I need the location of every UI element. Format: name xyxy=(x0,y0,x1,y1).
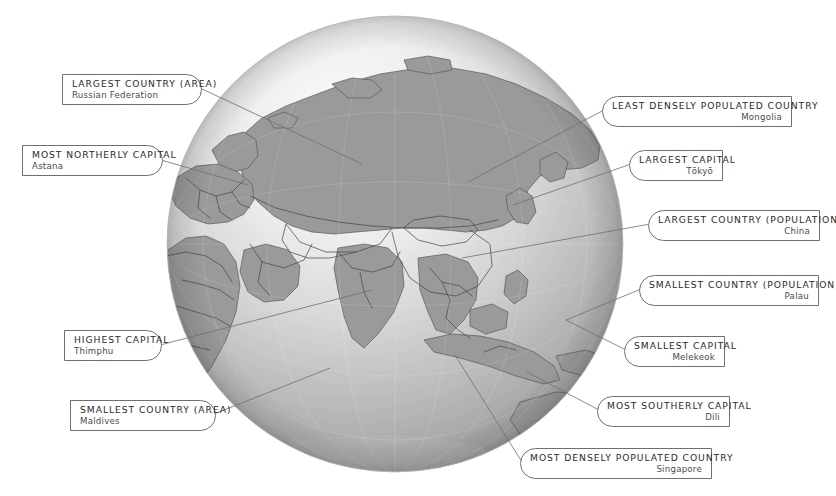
callout-value: Astana xyxy=(32,162,153,171)
callout-value: Russian Federation xyxy=(72,91,192,100)
callout-largest-country-area[interactable]: LARGEST COUNTRY (AREA)Russian Federation xyxy=(62,74,202,105)
callout-value: Maldives xyxy=(80,417,206,426)
callout-header: LEAST DENSELY POPULATED COUNTRY xyxy=(612,101,782,110)
callout-header: SMALLEST COUNTRY (POPULATION) xyxy=(649,280,809,289)
callout-least-densely-populated-country[interactable]: LEAST DENSELY POPULATED COUNTRYMongolia xyxy=(602,96,792,127)
callout-value: Melekeok xyxy=(634,353,715,362)
callout-largest-capital[interactable]: LARGEST CAPITALTōkyō xyxy=(629,150,723,181)
callout-value: Thimphu xyxy=(74,347,152,356)
callout-header: HIGHEST CAPITAL xyxy=(74,335,152,344)
callout-smallest-country-area[interactable]: SMALLEST COUNTRY (AREA)Maldives xyxy=(70,400,216,431)
callout-header: MOST SOUTHERLY CAPITAL xyxy=(607,401,720,410)
callout-value: Dili xyxy=(607,413,720,422)
callout-header: SMALLEST COUNTRY (AREA) xyxy=(80,405,206,414)
callout-header: LARGEST CAPITAL xyxy=(639,155,713,164)
infographic-canvas: LARGEST COUNTRY (AREA)Russian Federation… xyxy=(0,0,836,496)
globe-rim-shading xyxy=(167,16,623,472)
callout-value: Palau xyxy=(649,292,809,301)
callout-most-densely-populated-country[interactable]: MOST DENSELY POPULATED COUNTRYSingapore xyxy=(520,448,712,479)
callout-header: MOST DENSELY POPULATED COUNTRY xyxy=(530,453,702,462)
callout-header: SMALLEST CAPITAL xyxy=(634,341,715,350)
callout-most-northerly-capital[interactable]: MOST NORTHERLY CAPITALAstana xyxy=(22,145,163,176)
callout-most-southerly-capital[interactable]: MOST SOUTHERLY CAPITALDili xyxy=(597,396,730,427)
callout-value: China xyxy=(658,227,810,236)
callout-header: LARGEST COUNTRY (POPULATION) xyxy=(658,215,810,224)
callout-value: Tōkyō xyxy=(639,167,713,176)
callout-smallest-country-population[interactable]: SMALLEST COUNTRY (POPULATION)Palau xyxy=(639,275,819,306)
callout-largest-country-population[interactable]: LARGEST COUNTRY (POPULATION)China xyxy=(648,210,820,241)
callout-smallest-capital[interactable]: SMALLEST CAPITALMelekeok xyxy=(624,336,725,367)
callout-highest-capital[interactable]: HIGHEST CAPITALThimphu xyxy=(64,330,162,361)
callout-value: Singapore xyxy=(530,465,702,474)
callout-header: MOST NORTHERLY CAPITAL xyxy=(32,150,153,159)
callout-header: LARGEST COUNTRY (AREA) xyxy=(72,79,192,88)
callout-value: Mongolia xyxy=(612,113,782,122)
